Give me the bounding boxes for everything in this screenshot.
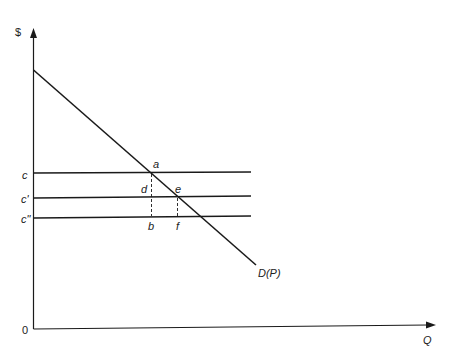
- price-line-c: [34, 172, 251, 173]
- x-axis: [34, 325, 429, 329]
- price-label-c: c: [22, 169, 28, 181]
- origin-label: 0: [22, 324, 28, 336]
- point-label-d: d: [141, 183, 148, 195]
- demand-curve-label: D(P): [258, 267, 281, 279]
- x-axis-label: Q: [423, 334, 432, 346]
- point-label-b: b: [148, 220, 154, 232]
- price-label-c-double-prime: c": [21, 213, 32, 225]
- point-label-e: e: [175, 183, 181, 195]
- price-label-c-prime: c': [21, 193, 30, 205]
- price-line-c-prime: [34, 196, 251, 198]
- x-axis-arrow-icon: [426, 322, 436, 329]
- demand-diagram: $ Q 0 c c' c" D(P) a d e b f: [0, 0, 450, 359]
- price-line-c-double-prime: [34, 216, 251, 218]
- point-label-f: f: [176, 220, 180, 232]
- y-axis-label: $: [15, 26, 21, 38]
- demand-curve: [34, 70, 257, 265]
- y-axis-arrow-icon: [30, 28, 37, 38]
- point-label-a: a: [153, 158, 159, 170]
